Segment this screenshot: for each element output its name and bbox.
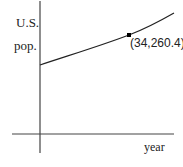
population-chart: U.S. pop. year (34,260.4) — [0, 0, 183, 167]
point-label: (34,260.4) — [130, 36, 183, 50]
x-axis-label: year — [144, 140, 165, 154]
y-axis-label-line2: pop. — [14, 38, 37, 53]
y-axis-label-line1: U.S. — [16, 15, 39, 30]
